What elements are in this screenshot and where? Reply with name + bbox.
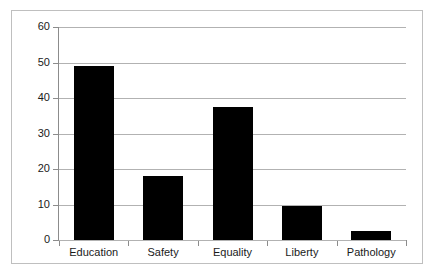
x-tick-label: Education (59, 246, 128, 259)
x-tick-label: Equality (198, 246, 267, 259)
y-tick-label: 60 (4, 21, 50, 32)
bar-chart: 0102030405060 EducationSafetyEqualityLib… (0, 0, 431, 279)
bar (74, 66, 114, 240)
gridline (59, 63, 406, 64)
x-tick-label: Safety (128, 246, 197, 259)
y-tick-label: 30 (4, 128, 50, 139)
gridline (59, 27, 406, 28)
y-tick-label: 40 (4, 92, 50, 103)
y-tick-label: 20 (4, 163, 50, 174)
bar (282, 206, 322, 240)
y-tick-mark (53, 98, 59, 99)
x-tick-mark (406, 241, 407, 246)
y-tick-label: 10 (4, 199, 50, 210)
gridline (59, 240, 406, 241)
y-tick-label: 50 (4, 57, 50, 68)
y-tick-mark (53, 27, 59, 28)
x-tick-label: Liberty (267, 246, 336, 259)
y-tick-labels: 0102030405060 (0, 0, 50, 279)
bar (143, 176, 183, 240)
bar (213, 107, 253, 240)
y-tick-mark (53, 63, 59, 64)
y-tick-mark (53, 205, 59, 206)
bar (351, 231, 391, 240)
x-tick-label: Pathology (337, 246, 406, 259)
y-tick-mark (53, 169, 59, 170)
y-tick-label: 0 (4, 234, 50, 245)
y-tick-mark (53, 134, 59, 135)
